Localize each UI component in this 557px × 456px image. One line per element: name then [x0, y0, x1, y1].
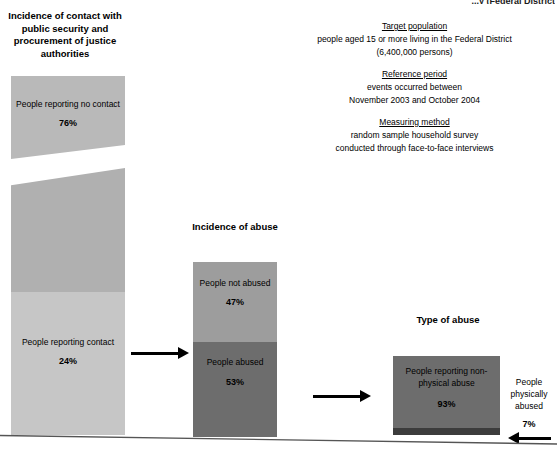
- contact-percent: 24%: [11, 356, 125, 366]
- no-contact-text-group: People reporting no contact 76%: [11, 98, 125, 128]
- nonphysical-label: People reporting non-physical abuse: [393, 365, 500, 389]
- physical-percent: 7%: [503, 419, 555, 429]
- figure-canvas: ...y (Federal District Target population…: [0, 0, 557, 456]
- baseline-line: [0, 436, 557, 445]
- contact-column-title: Incidence of contact with public securit…: [4, 10, 126, 60]
- target-population-line-1: people aged 15 or more living in the Fed…: [272, 33, 557, 46]
- bar-people-reporting-no-contact: People reporting no contact 76%: [11, 76, 125, 159]
- bar-people-reporting-contact-upper: [11, 168, 125, 292]
- flow-arrow-3-head-icon: [508, 432, 519, 444]
- target-population-line-2: (6,400,000 persons): [272, 46, 557, 59]
- flow-arrow-1-line: [131, 352, 180, 355]
- bar-people-reporting-contact-lower: People reporting contact 24%: [11, 292, 125, 435]
- measuring-method-heading: Measuring method: [272, 116, 557, 129]
- clipped-page-title: ...y (Federal District: [330, 0, 555, 4]
- reference-period-heading: Reference period: [272, 68, 557, 81]
- measuring-method-line-1: random sample household survey: [272, 129, 557, 142]
- not-abused-text-group: People not abused 47%: [193, 277, 277, 307]
- bar-physically-abused: [393, 428, 500, 435]
- reference-period-line-1: events occurred between: [272, 81, 557, 94]
- info-spacer-1: [272, 59, 557, 68]
- contact-label: People reporting contact: [11, 336, 125, 348]
- not-abused-percent: 47%: [193, 297, 277, 307]
- physical-label: People physically abused: [503, 376, 555, 412]
- no-contact-percent: 76%: [11, 118, 125, 128]
- type-of-abuse-column-title: Type of abuse: [405, 314, 491, 327]
- survey-info-block: Target population people aged 15 or more…: [272, 20, 557, 155]
- contact-text-group: People reporting contact 24%: [11, 336, 125, 366]
- no-contact-label: People reporting no contact: [11, 98, 125, 110]
- nonphysical-percent: 93%: [393, 399, 500, 409]
- bar-non-physical-abuse: People reporting non-physical abuse 93%: [393, 356, 500, 428]
- not-abused-label: People not abused: [193, 277, 277, 289]
- bar-people-abused: People abused 53%: [193, 342, 277, 437]
- flow-arrow-2-line: [313, 395, 362, 398]
- reference-period-line-2: November 2003 and October 2004: [272, 94, 557, 107]
- abuse-column-title: Incidence of abuse: [192, 221, 278, 234]
- flow-arrow-3-line: [519, 437, 551, 440]
- abused-percent: 53%: [193, 377, 277, 387]
- physically-abused-note: People physically abused 7%: [503, 376, 555, 429]
- nonphysical-text-group: People reporting non-physical abuse 93%: [393, 365, 500, 409]
- target-population-heading: Target population: [272, 20, 557, 33]
- info-spacer-2: [272, 107, 557, 116]
- abused-text-group: People abused 53%: [193, 356, 277, 387]
- abused-label: People abused: [193, 356, 277, 368]
- flow-arrow-1-head-icon: [178, 347, 189, 359]
- measuring-method-line-2: conducted through face-to-face interview…: [272, 142, 557, 155]
- bar-people-not-abused: People not abused 47%: [193, 262, 277, 342]
- flow-arrow-2-head-icon: [360, 390, 371, 402]
